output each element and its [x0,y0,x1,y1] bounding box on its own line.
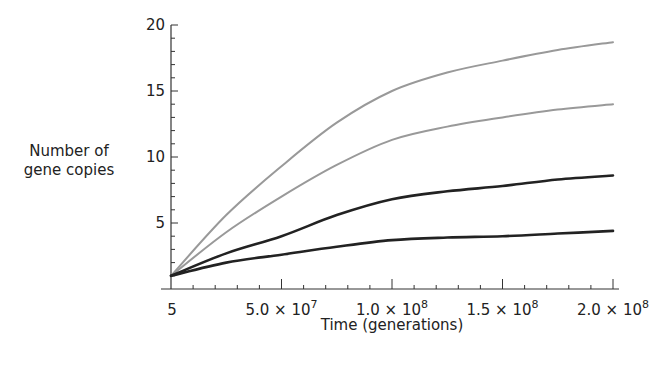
y-axis-title-line1: Number of [4,142,134,161]
y-axis-title: Number of gene copies [4,142,134,180]
series-line-4 [171,231,613,276]
x-axis-title: Time (generations) [292,316,492,334]
y-tick-label: 10 [146,148,165,166]
x-tick-label: 2.0 × 108 [577,298,649,319]
y-tick-label: 5 [155,214,165,232]
axes: 510152055.0 × 1071.0 × 1081.5 × 1082.0 ×… [146,16,649,319]
series-group [171,42,613,276]
y-axis-title-line2: gene copies [4,161,134,180]
y-tick-label: 15 [146,82,165,100]
y-tick-label: 20 [146,16,165,34]
x-tick-label: 5 [167,301,177,319]
